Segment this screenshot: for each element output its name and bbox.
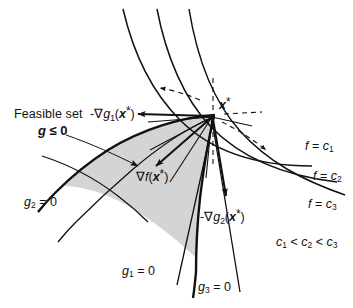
- arrow-neg-grad-g2: [213, 119, 226, 196]
- equals-sign: =: [308, 139, 322, 153]
- constraint-line-g3-right: [212, 120, 240, 292]
- x-symbol: x: [229, 210, 236, 224]
- paren-close: ): [164, 170, 168, 184]
- contour-label-c3: f = c3: [308, 198, 337, 212]
- x-symbol: x: [153, 170, 160, 184]
- equals-zero: = 0: [210, 280, 231, 294]
- nabla-icon: ∇: [136, 170, 145, 184]
- g3-zero-label: g3 = 0: [198, 281, 231, 295]
- c-subscript: 3: [332, 202, 337, 212]
- feasible-value: 0: [60, 123, 67, 138]
- dashed-tangent-upper: [160, 88, 200, 100]
- grad-f-label: ∇f(x*): [136, 168, 168, 184]
- nabla-icon: ∇: [204, 210, 213, 224]
- paren-close: ): [241, 210, 245, 224]
- kkt-optimality-figure: Feasible set g ≤ 0 -∇g1(x*) x* ∇f(x*) -∇…: [0, 0, 353, 308]
- x-star-label: x*: [219, 96, 231, 112]
- less-than-1: <: [287, 235, 301, 249]
- cone-line-d: [212, 117, 252, 126]
- contour-curve-c3: [189, 9, 345, 195]
- g-symbol: g: [122, 264, 129, 278]
- figure-canvas: [0, 0, 353, 308]
- c-subscript: 1: [329, 144, 334, 154]
- contour-label-c1: f = c1: [305, 140, 334, 154]
- g-symbol: g: [198, 280, 205, 294]
- less-than-2: <: [312, 235, 326, 249]
- neg-grad-g1-label: -∇g1(x*): [90, 105, 135, 123]
- feasible-rel-symbol: ≤: [46, 123, 60, 138]
- equals-sign: =: [316, 169, 330, 183]
- g-symbol: g: [24, 195, 31, 209]
- equals-sign: =: [311, 197, 325, 211]
- neg-grad-g2-label: -∇g2(x*): [200, 208, 245, 226]
- equals-zero: = 0: [36, 195, 57, 209]
- x-star-asterisk: *: [226, 95, 231, 109]
- x-star-point: [209, 114, 214, 119]
- contour-ordering-label: c1 < c2 < c3: [276, 236, 337, 250]
- feasible-set-label: Feasible set: [14, 108, 83, 121]
- g2-zero-label: g2 = 0: [24, 196, 57, 210]
- c-subscript: 2: [337, 174, 342, 184]
- c-subscript-3: 3: [333, 240, 338, 250]
- g1-zero-label: g1 = 0: [122, 265, 155, 279]
- paren-close: ): [131, 107, 135, 121]
- equals-zero: = 0: [134, 264, 155, 278]
- x-symbol: x: [119, 107, 126, 121]
- nabla-icon: ∇: [94, 107, 103, 121]
- x-star-symbol: x: [219, 98, 226, 112]
- contour-label-c2: f = c2: [313, 170, 342, 184]
- feasible-g-symbol: g: [38, 123, 46, 138]
- feasible-set-region: [64, 116, 213, 258]
- feasible-set-constraint-label: g ≤ 0: [38, 124, 68, 138]
